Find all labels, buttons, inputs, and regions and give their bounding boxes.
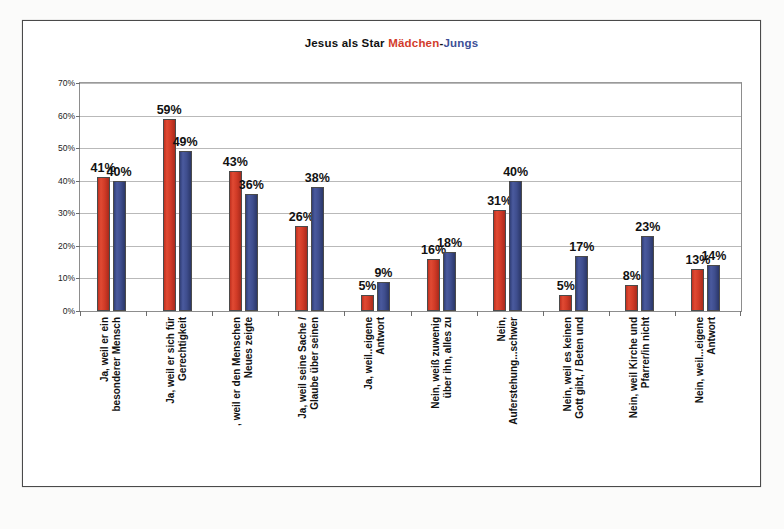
bar-boys bbox=[179, 151, 192, 311]
bar-girls bbox=[493, 210, 506, 311]
y-axis-tick-label: 20% bbox=[58, 241, 75, 251]
y-axis-tick-mark bbox=[76, 148, 80, 149]
bar-boys bbox=[245, 194, 258, 311]
bar-value-label: 23% bbox=[635, 220, 660, 234]
bar-girls bbox=[427, 259, 440, 311]
x-axis-tick-mark bbox=[411, 311, 412, 316]
bar-girls bbox=[625, 285, 638, 311]
x-axis-tick-mark bbox=[80, 311, 81, 316]
x-axis-tick-mark bbox=[146, 311, 147, 316]
category-label: , weil er den MenschenNeues zeigte bbox=[231, 317, 245, 467]
bar-value-label: 9% bbox=[374, 266, 392, 280]
category-label: Nein, weiß zuwenigüber ihn, alles zu bbox=[430, 317, 444, 467]
y-axis-tick-mark bbox=[76, 213, 80, 214]
y-axis-tick-label: 50% bbox=[58, 143, 75, 153]
bar-value-label: 14% bbox=[701, 249, 726, 263]
y-axis-tick-mark bbox=[76, 83, 80, 84]
bar-value-label: 38% bbox=[305, 171, 330, 185]
bar-boys bbox=[113, 181, 126, 311]
chart-frame: Jesus als Star Mädchen-Jungs 70%60%50%40… bbox=[22, 20, 761, 487]
bar-value-label: 40% bbox=[107, 165, 132, 179]
y-axis-tick-mark bbox=[76, 278, 80, 279]
y-axis-tick-mark bbox=[76, 246, 80, 247]
x-axis-tick-mark bbox=[212, 311, 213, 316]
x-axis-tick-mark bbox=[543, 311, 544, 316]
legend-boys-label: Jungs bbox=[443, 37, 478, 49]
y-axis-tick-mark bbox=[76, 181, 80, 182]
y-axis-tick-label: 40% bbox=[58, 176, 75, 186]
chart-title-main: Jesus als Star bbox=[305, 37, 389, 49]
bar-value-label: 59% bbox=[157, 103, 182, 117]
category-label: Nein, weil...eigeneAntwort bbox=[694, 317, 708, 467]
category-label: Ja, weil..eigeneAntwort bbox=[363, 317, 377, 467]
y-axis-tick-label: 10% bbox=[58, 273, 75, 283]
bar-value-label: 8% bbox=[623, 269, 641, 283]
chart-title: Jesus als Star Mädchen-Jungs bbox=[23, 37, 760, 49]
x-axis-tick-mark bbox=[477, 311, 478, 316]
scanned-page-background: Jesus als Star Mädchen-Jungs 70%60%50%40… bbox=[0, 0, 784, 529]
bar-girls bbox=[691, 269, 704, 311]
category-label: Ja, weil seine Sache /Glaube über seinen bbox=[297, 317, 311, 467]
category-label: Nein, weil Kirche undPfarrer/in nicht bbox=[628, 317, 642, 467]
bar-value-label: 43% bbox=[223, 155, 248, 169]
bar-value-label: 5% bbox=[557, 279, 575, 293]
bar-girls bbox=[361, 295, 374, 311]
bar-girls bbox=[229, 171, 242, 311]
bar-boys bbox=[377, 282, 390, 311]
y-axis-tick-label: 70% bbox=[58, 78, 75, 88]
gridline bbox=[80, 83, 741, 84]
bar-boys bbox=[575, 256, 588, 311]
bar-boys bbox=[311, 187, 324, 311]
bar-value-label: 5% bbox=[358, 279, 376, 293]
category-label: Ja, weil er einbesonderer Mensch bbox=[99, 317, 113, 467]
x-axis-tick-mark bbox=[675, 311, 676, 316]
legend-girls-label: Mädchen bbox=[388, 37, 439, 49]
bar-value-label: 40% bbox=[503, 165, 528, 179]
bar-value-label: 36% bbox=[239, 178, 264, 192]
bar-value-label: 18% bbox=[437, 236, 462, 250]
bar-boys bbox=[641, 236, 654, 311]
bar-boys bbox=[707, 265, 720, 311]
bar-girls bbox=[295, 226, 308, 311]
x-axis-tick-mark bbox=[740, 311, 741, 316]
plot-area: 70%60%50%40%30%20%10%0%41%40%59%49%43%36… bbox=[79, 82, 742, 312]
bar-value-label: 49% bbox=[173, 135, 198, 149]
category-label: Nein, weil es keinenGott gibt, / Beten u… bbox=[562, 317, 576, 467]
y-axis-tick-label: 30% bbox=[58, 208, 75, 218]
category-label: Nein,Auferstehung...schwer bbox=[496, 317, 510, 467]
bar-boys bbox=[443, 252, 456, 311]
x-axis-tick-mark bbox=[609, 311, 610, 316]
x-axis-tick-mark bbox=[278, 311, 279, 316]
bar-value-label: 17% bbox=[569, 240, 594, 254]
category-label: Ja, weil er sich fürGerechtigkeit bbox=[165, 317, 179, 467]
bar-girls bbox=[97, 177, 110, 311]
x-axis-tick-mark bbox=[344, 311, 345, 316]
y-axis-tick-mark bbox=[76, 116, 80, 117]
y-axis-tick-label: 60% bbox=[58, 111, 75, 121]
y-axis-tick-label: 0% bbox=[63, 306, 75, 316]
bar-girls bbox=[559, 295, 572, 311]
bar-boys bbox=[509, 181, 522, 311]
